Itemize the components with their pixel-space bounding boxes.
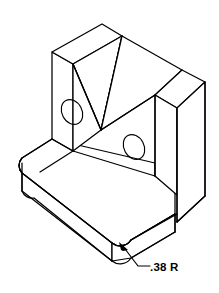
- technical-drawing-canvas: Isometric pictorial of V-block bracket: [0, 0, 219, 293]
- left-wall-left-face: [52, 52, 73, 151]
- isometric-part-drawing: Isometric pictorial of V-block bracket: [0, 0, 219, 293]
- radius-callout-label: .38 R: [150, 261, 179, 273]
